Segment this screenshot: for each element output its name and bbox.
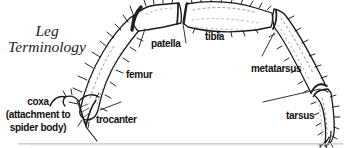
metatarsus-segment — [273, 9, 326, 93]
label-femur: femur — [126, 69, 152, 80]
label-patella: patella — [151, 38, 181, 49]
leader-trocanter — [100, 102, 121, 110]
label-trocanter: trocanter — [96, 114, 137, 125]
leader-metatarsus — [262, 33, 274, 56]
label-coxa-line2: (attachment to — [0, 108, 76, 121]
figure-title-line2: Terminology — [1, 39, 93, 55]
label-metatarsus: metatarsus — [251, 63, 301, 74]
label-coxa-line3: spider body) — [0, 121, 76, 134]
leg-terminology-figure: Leg Terminology coxa (attachment to spid… — [0, 0, 349, 148]
label-coxa-line1: coxa — [0, 95, 76, 108]
figure-title: Leg Terminology — [1, 23, 93, 55]
label-tibia: tibia — [205, 31, 224, 42]
label-coxa: coxa (attachment to spider body) — [0, 95, 76, 134]
leader-tarsus — [263, 89, 320, 102]
leader-patella-right — [183, 24, 186, 43]
bottom-edge-shadow — [18, 143, 343, 146]
tarsus-segment — [314, 89, 334, 146]
leader-patella-left — [139, 29, 145, 47]
figure-title-line1: Leg — [1, 23, 93, 39]
label-tarsus: tarsus — [286, 110, 314, 121]
